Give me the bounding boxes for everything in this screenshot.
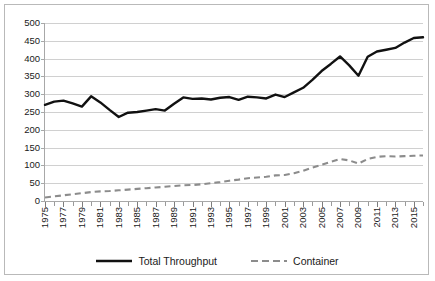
y-axis-tick-label: 400 bbox=[6, 54, 40, 63]
y-axis-tick-mark bbox=[41, 130, 45, 131]
x-axis-tick-label: 2005 bbox=[317, 207, 326, 228]
x-axis-tick-mark bbox=[331, 202, 332, 206]
legend-label-total-throughput: Total Throughput bbox=[138, 256, 217, 267]
plot-area bbox=[45, 23, 423, 201]
y-axis-tick-mark bbox=[41, 148, 45, 149]
y-axis-tick-label: 200 bbox=[6, 125, 40, 134]
x-axis-tick-mark bbox=[91, 202, 92, 206]
x-axis-tick-label: 1993 bbox=[206, 207, 215, 228]
x-axis-tick-mark bbox=[294, 202, 295, 206]
x-axis-tick-mark bbox=[54, 202, 55, 206]
x-axis-labels: 1975197719791981198319851987198919911993… bbox=[45, 207, 423, 247]
x-axis-tick-label: 1981 bbox=[95, 207, 104, 228]
x-axis-tick-label: 1983 bbox=[114, 207, 123, 228]
x-axis-tick-label: 1987 bbox=[151, 207, 160, 228]
x-axis-tick-label: 1975 bbox=[40, 207, 49, 228]
x-axis-tick-label: 1995 bbox=[224, 207, 233, 228]
y-axis-tick-label: 500 bbox=[6, 18, 40, 27]
y-axis-tick-label: 300 bbox=[6, 89, 40, 98]
x-axis-tick-mark bbox=[275, 202, 276, 206]
y-axis-tick-label: 250 bbox=[6, 107, 40, 116]
x-axis-tick-label: 2007 bbox=[335, 207, 344, 228]
series-layer bbox=[45, 23, 423, 201]
y-axis-tick-mark bbox=[41, 59, 45, 60]
x-axis-tick-label: 1997 bbox=[243, 207, 252, 228]
y-axis-tick-label: 100 bbox=[6, 160, 40, 169]
y-axis-tick-mark bbox=[41, 76, 45, 77]
x-axis-tick-mark bbox=[349, 202, 350, 206]
x-axis-tick-label: 2009 bbox=[353, 207, 362, 228]
x-axis-tick-label: 2011 bbox=[372, 207, 381, 227]
x-axis-tick-label: 2013 bbox=[390, 207, 399, 228]
series-line-container bbox=[45, 155, 423, 197]
x-axis-tick-label: 2001 bbox=[280, 207, 289, 228]
x-axis-tick-mark bbox=[128, 202, 129, 206]
legend-swatch-solid-icon bbox=[96, 256, 132, 266]
x-axis-tick-mark bbox=[257, 202, 258, 206]
legend-label-container: Container bbox=[293, 256, 339, 267]
y-axis-tick-mark bbox=[41, 41, 45, 42]
x-axis-tick-mark bbox=[239, 202, 240, 206]
x-axis-tick-mark bbox=[146, 202, 147, 206]
x-axis-tick-label: 1991 bbox=[188, 207, 197, 228]
y-axis-tick-label: 350 bbox=[6, 71, 40, 80]
y-axis-tick-mark bbox=[41, 94, 45, 95]
y-axis-labels: 050100150200250300350400450500 bbox=[5, 5, 45, 219]
y-axis-tick-mark bbox=[41, 165, 45, 166]
legend-swatch-dashed-icon bbox=[251, 256, 287, 266]
x-axis-tick-mark bbox=[386, 202, 387, 206]
x-axis-tick-mark bbox=[405, 202, 406, 206]
x-axis-tick-mark bbox=[202, 202, 203, 206]
chart-legend: Total Throughput Container bbox=[5, 252, 430, 270]
series-line-total-throughput bbox=[45, 37, 423, 117]
x-axis-tick-label: 1979 bbox=[77, 207, 86, 228]
chart-container: 050100150200250300350400450500 197519771… bbox=[4, 4, 429, 275]
x-axis-tick-label: 1999 bbox=[261, 207, 270, 228]
y-axis-tick-label: 0 bbox=[6, 196, 40, 205]
y-axis-tick-label: 50 bbox=[6, 178, 40, 187]
y-axis-tick-mark bbox=[41, 183, 45, 184]
x-axis-tick-label: 2015 bbox=[409, 207, 418, 228]
x-axis-tick-mark bbox=[183, 202, 184, 206]
x-axis-tick-mark bbox=[220, 202, 221, 206]
x-axis-tick-mark bbox=[110, 202, 111, 206]
legend-item-total-throughput: Total Throughput bbox=[96, 256, 217, 267]
x-axis-tick-label: 1977 bbox=[58, 207, 67, 228]
x-axis-tick-mark bbox=[368, 202, 369, 206]
y-axis-tick-label: 450 bbox=[6, 36, 40, 45]
x-axis-tick-mark bbox=[423, 202, 424, 206]
legend-item-container: Container bbox=[251, 256, 339, 267]
y-axis-tick-label: 150 bbox=[6, 143, 40, 152]
y-axis-tick-mark bbox=[41, 112, 45, 113]
x-axis-tick-label: 1989 bbox=[169, 207, 178, 228]
x-axis-tick-label: 1985 bbox=[132, 207, 141, 228]
x-axis-tick-mark bbox=[312, 202, 313, 206]
y-axis-tick-mark bbox=[41, 201, 45, 202]
x-axis-tick-mark bbox=[73, 202, 74, 206]
x-axis-tick-mark bbox=[165, 202, 166, 206]
x-axis-tick-label: 2003 bbox=[298, 207, 307, 228]
y-axis-tick-mark bbox=[41, 23, 45, 24]
